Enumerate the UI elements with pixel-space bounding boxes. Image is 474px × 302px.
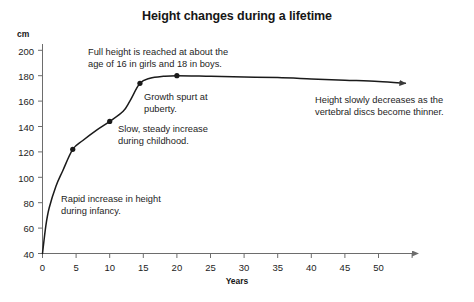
y-tick-label-180: 180	[8, 71, 34, 82]
x-tick-label-10: 10	[99, 262, 121, 273]
x-tick-label-35: 35	[267, 262, 289, 273]
annotation-full-height: Full height is reached at about the age …	[88, 47, 228, 70]
annotation-infancy: Rapid increase in height during infancy.	[61, 194, 161, 217]
y-tick-label-40: 40	[8, 249, 34, 260]
y-axis-ticks	[38, 50, 43, 253]
x-tick-label-50: 50	[368, 262, 390, 273]
data-point-marker	[107, 119, 112, 124]
data-point-marker	[174, 73, 179, 78]
y-tick-label-160: 160	[8, 96, 34, 107]
data-point-marker	[137, 81, 142, 86]
annotation-decline: Height slowly decreases as the vertebral…	[315, 95, 444, 118]
annotation-childhood: Slow, steady increase during childhood.	[118, 124, 208, 147]
x-tick-label-30: 30	[233, 262, 255, 273]
x-axis-ticks	[43, 254, 413, 259]
x-tick-label-0: 0	[32, 262, 54, 273]
chart-figure: Height changes during a lifetime cm Year…	[0, 0, 474, 302]
x-tick-label-25: 25	[200, 262, 222, 273]
x-tick-label-15: 15	[132, 262, 154, 273]
chart-plot-area	[0, 0, 474, 302]
x-tick-label-20: 20	[166, 262, 188, 273]
y-tick-label-200: 200	[8, 46, 34, 57]
x-tick-label-40: 40	[300, 262, 322, 273]
annotation-growth-spurt: Growth spurt at puberty.	[144, 92, 208, 115]
y-tick-label-60: 60	[8, 223, 34, 234]
x-tick-label-45: 45	[334, 262, 356, 273]
y-tick-label-100: 100	[8, 173, 34, 184]
y-tick-label-140: 140	[8, 122, 34, 133]
y-tick-label-120: 120	[8, 147, 34, 158]
x-tick-label-5: 5	[65, 262, 87, 273]
y-tick-label-80: 80	[8, 198, 34, 209]
data-point-marker	[70, 147, 75, 152]
